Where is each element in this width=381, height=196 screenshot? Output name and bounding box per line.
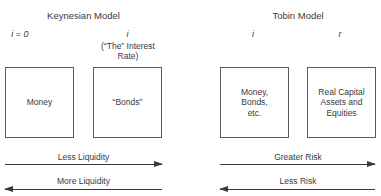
money-bonds-box: Money, Bonds, etc. (220, 67, 289, 138)
keynesian-title: Keynesian Model (5, 10, 162, 21)
interest-rate-note: (“The” Interest Rate) (88, 41, 168, 61)
arrowhead-right-icon (367, 161, 376, 167)
less-liquidity-arrow (5, 164, 162, 165)
less-risk-arrow (220, 189, 375, 190)
money-bonds-box-label: Money, Bonds, etc. (241, 87, 268, 119)
greater-risk-label: Greater Risk (220, 152, 376, 162)
less-risk-label: Less Risk (220, 176, 376, 186)
bonds-rate-label: i (93, 29, 162, 39)
more-liquidity-arrow (5, 189, 162, 190)
more-liquidity-label: More Liquidity (5, 176, 162, 186)
tobin-left-rate-label: i (243, 29, 263, 39)
arrowhead-left-icon (219, 186, 228, 192)
bonds-box-label: “Bonds” (113, 97, 143, 108)
arrowhead-right-icon (154, 161, 163, 167)
bonds-box: “Bonds” (93, 67, 162, 138)
real-capital-box: Real Capital Assets and Equities (307, 67, 376, 138)
arrowhead-left-icon (4, 186, 13, 192)
tobin-right-rate-label: r (330, 29, 350, 39)
money-box: Money (5, 67, 74, 138)
money-rate-label: i = 0 (5, 29, 35, 39)
less-liquidity-label: Less Liquidity (5, 152, 162, 162)
money-box-label: Money (27, 97, 53, 108)
real-capital-box-label: Real Capital Assets and Equities (318, 87, 364, 119)
greater-risk-arrow (220, 164, 375, 165)
tobin-title: Tobin Model (220, 10, 376, 21)
